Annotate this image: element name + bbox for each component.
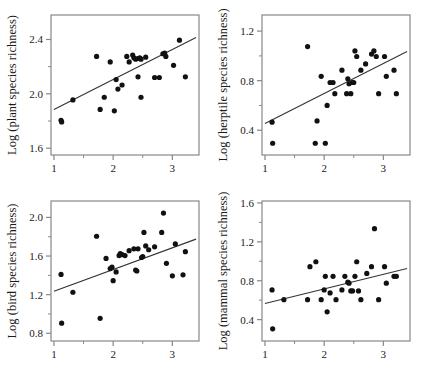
y-tick-label: 0.8 <box>240 275 254 287</box>
panel-herptile: 0.40.81.2123Log (herptile species richne… <box>211 0 421 185</box>
data-point <box>384 74 389 79</box>
y-axis-title: Log (mammal species richness) <box>216 192 230 351</box>
data-point <box>114 269 119 274</box>
data-point <box>135 74 140 79</box>
data-point <box>327 290 332 295</box>
y-tick-label: 1.2 <box>240 236 254 248</box>
data-point <box>180 272 185 277</box>
data-point <box>159 230 164 235</box>
data-point <box>183 74 188 79</box>
y-tick-label: 2.4 <box>29 33 43 45</box>
y-tick-label: 1.6 <box>29 250 43 262</box>
plot-area: 0.40.81.21.6123 <box>240 197 410 360</box>
data-point <box>364 271 369 276</box>
x-tick-label: 3 <box>381 162 387 174</box>
data-point <box>134 268 139 273</box>
data-point <box>115 86 120 91</box>
y-axis-title: Log (plant species richness) <box>5 15 19 155</box>
regression-line <box>265 52 407 124</box>
panel-plant-svg: 1.62.02.4123Log (plant species richness) <box>0 0 210 185</box>
data-point <box>350 288 355 293</box>
x-tick-label: 3 <box>381 348 387 360</box>
data-point <box>146 247 151 252</box>
x-tick-label: 3 <box>170 162 176 174</box>
plot-area: 1.62.02.4123 <box>29 15 199 174</box>
y-tick-label: 2.0 <box>29 88 43 100</box>
panel-plant: 1.62.02.4123Log (plant species richness) <box>0 0 210 185</box>
data-point <box>345 76 350 81</box>
data-point <box>127 248 132 253</box>
data-point <box>170 273 175 278</box>
data-point <box>322 287 327 292</box>
data-point <box>157 75 162 80</box>
y-tick-label: 1.2 <box>29 289 43 301</box>
data-point <box>352 274 357 279</box>
plot-area: 0.81.21.62.0123 <box>29 201 199 360</box>
data-point <box>342 274 347 279</box>
data-point <box>352 48 357 53</box>
data-point <box>376 297 381 302</box>
plot-frame <box>262 201 410 341</box>
y-tick-label: 0.8 <box>240 75 254 87</box>
x-tick-label: 3 <box>170 348 176 360</box>
data-point <box>354 54 359 59</box>
four-panel-scatter-figure: 1.62.02.4123Log (plant species richness)… <box>0 0 421 371</box>
data-point <box>70 290 75 295</box>
data-point <box>394 91 399 96</box>
data-point <box>140 254 145 259</box>
y-axis-title: Log (bird species richness) <box>5 203 19 338</box>
data-point <box>384 281 389 286</box>
plot-frame <box>51 201 199 341</box>
data-point <box>339 287 344 292</box>
panel-mammal: 0.40.81.21.6123Log (mammal species richn… <box>211 186 421 371</box>
data-point <box>70 97 75 102</box>
data-point <box>143 55 148 60</box>
data-point <box>313 141 318 146</box>
regression-line <box>54 37 196 109</box>
y-axis-title: Log (herptile species richness) <box>216 8 230 161</box>
x-tick-label: 2 <box>321 348 327 360</box>
data-point <box>354 259 359 264</box>
x-tick-label: 2 <box>110 348 116 360</box>
data-point <box>351 80 356 85</box>
data-point <box>102 95 107 100</box>
data-point <box>333 297 338 302</box>
data-point <box>183 249 188 254</box>
regression-line <box>54 239 196 291</box>
data-point <box>135 246 140 251</box>
data-point <box>177 38 182 43</box>
data-point <box>358 68 363 73</box>
data-point <box>163 54 168 59</box>
panel-mammal-svg: 0.40.81.21.6123Log (mammal species richn… <box>211 186 421 371</box>
data-point <box>314 118 319 123</box>
plot-frame <box>262 15 410 155</box>
y-tick-label: 1.6 <box>240 197 254 209</box>
data-point <box>108 59 113 64</box>
data-point <box>112 108 117 113</box>
data-point <box>138 57 143 62</box>
data-point <box>173 241 178 246</box>
data-point <box>319 74 324 79</box>
x-tick-label: 1 <box>51 162 57 174</box>
data-point <box>376 91 381 96</box>
data-point <box>141 230 146 235</box>
data-point <box>330 274 335 279</box>
x-tick-label: 2 <box>110 162 116 174</box>
data-point <box>394 274 399 279</box>
data-point <box>339 68 344 73</box>
y-tick-label: 2.0 <box>29 211 43 223</box>
data-point <box>346 281 351 286</box>
data-point <box>152 75 157 80</box>
data-point <box>270 141 275 146</box>
data-point <box>305 44 310 49</box>
data-point <box>305 297 310 302</box>
data-point <box>372 226 377 231</box>
data-point <box>323 141 328 146</box>
data-point <box>382 54 387 59</box>
data-point <box>356 288 361 293</box>
data-point <box>325 103 330 108</box>
data-point <box>323 274 328 279</box>
panel-bird: 0.81.21.62.0123Log (bird species richnes… <box>0 186 210 371</box>
plot-frame <box>51 15 199 155</box>
data-point <box>391 68 396 73</box>
